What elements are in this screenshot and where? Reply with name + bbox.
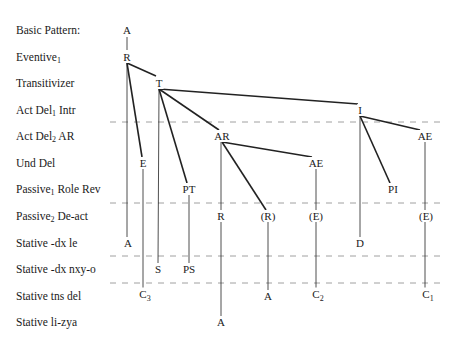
tree-node-i: I xyxy=(357,104,363,116)
tree-node-ar: AR xyxy=(213,130,230,142)
tree-edge xyxy=(222,142,266,210)
tree-node-t: T xyxy=(155,77,164,89)
tree-node-ae2: AE xyxy=(308,157,325,169)
tree-node-pi: PI xyxy=(387,183,399,195)
tree-edge xyxy=(222,142,312,157)
tree-edge xyxy=(159,89,219,130)
tree-node-rp: (R) xyxy=(260,210,277,222)
tree-node-ae1: AE xyxy=(417,130,434,142)
tree-edge xyxy=(127,63,156,76)
tree-node-a0: A xyxy=(122,24,132,36)
tree-node-s: S xyxy=(154,263,162,275)
tree-node-d: D xyxy=(355,237,365,249)
tree-edge xyxy=(360,116,390,183)
tree-edge xyxy=(159,89,187,183)
tree-node-c1: C1 xyxy=(421,288,434,305)
tree-edge xyxy=(360,116,420,130)
tree-node-a1: A xyxy=(123,237,133,249)
tree-node-c2: C2 xyxy=(311,288,324,305)
tree-node-r2: R xyxy=(216,210,225,222)
tree-edge xyxy=(159,89,358,104)
tree-node-pt: PT xyxy=(182,183,197,195)
tree-node-r: R xyxy=(122,51,131,63)
tree-node-a3: A xyxy=(216,316,226,328)
tree-node-ep1: (E) xyxy=(308,210,324,222)
tree-diagram xyxy=(0,0,452,348)
tree-edge xyxy=(158,89,159,263)
tree-node-ep2: (E) xyxy=(418,210,434,222)
tree-edge xyxy=(127,63,142,157)
tree-node-e: E xyxy=(139,157,148,169)
tree-node-ps: PS xyxy=(182,263,196,275)
tree-node-a2: A xyxy=(263,290,273,302)
tree-node-c3: C3 xyxy=(138,288,151,305)
